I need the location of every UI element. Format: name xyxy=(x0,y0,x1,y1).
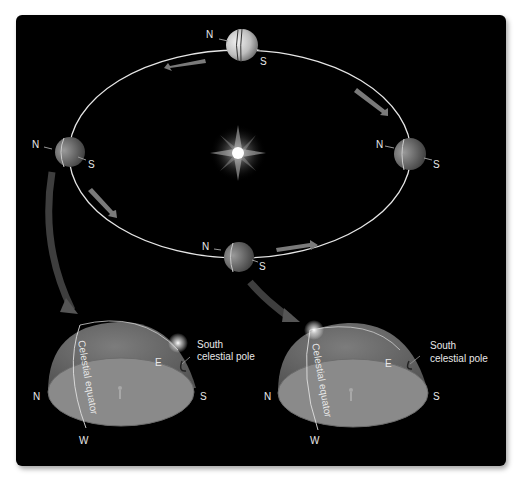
right-sky-dome xyxy=(278,320,428,430)
left-pole-label-2: celestial pole xyxy=(197,351,255,362)
right-dir-w: W xyxy=(310,435,320,446)
bottom-south-label: S xyxy=(259,261,266,272)
right-dir-n: N xyxy=(264,391,271,402)
left-zoom-arrow xyxy=(49,172,72,310)
left-dir-e: E xyxy=(155,357,162,368)
left-pole-label-1: South xyxy=(197,339,223,350)
left-north-label: N xyxy=(32,139,39,150)
left-sky-dome xyxy=(48,321,196,428)
right-pole-label-2: celestial pole xyxy=(430,353,488,364)
bottom-north-label: N xyxy=(202,241,209,252)
right-dir-e: E xyxy=(385,358,392,369)
left-dir-n: N xyxy=(33,391,40,402)
orbit-diagram: N S N S N S N S Celesti xyxy=(0,0,528,486)
earth-left-icon xyxy=(44,137,86,167)
right-dir-s: S xyxy=(433,391,440,402)
right-pole-label-1: South xyxy=(430,340,456,351)
top-south-label: S xyxy=(260,56,267,67)
left-dir-s: S xyxy=(200,391,207,402)
earth-top-icon xyxy=(219,29,262,62)
right-north-label: N xyxy=(376,139,383,150)
top-north-label: N xyxy=(206,29,213,40)
right-south-label: S xyxy=(433,159,440,170)
left-south-label: S xyxy=(88,159,95,170)
earth-right-icon xyxy=(385,138,432,170)
left-dir-w: W xyxy=(79,435,89,446)
sun-icon xyxy=(210,125,266,181)
